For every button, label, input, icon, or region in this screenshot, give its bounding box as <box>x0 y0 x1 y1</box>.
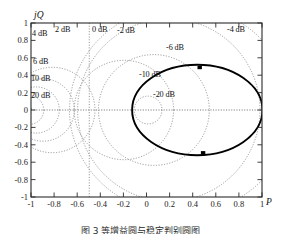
x-tick-label-10: 1 <box>242 199 281 209</box>
y-tick-label-8: -0.6 <box>0 157 28 167</box>
y-tick-label-7: -0.4 <box>0 140 28 150</box>
figure-caption: 图 3 等增益圆与稳定判别圆图 <box>0 224 281 234</box>
curve-marker-lower <box>201 151 205 154</box>
contour-label-2db: 2 dB <box>55 25 70 34</box>
contour-label-20db: 20 dB <box>31 91 50 100</box>
contour-label-0db: 0 dB <box>92 25 107 34</box>
contour-label-minus20db: -20 dB <box>153 90 175 99</box>
contour-label-6db: 6 dB <box>33 57 48 66</box>
x-axis-name: P <box>266 197 272 207</box>
y-tick-label-4: 0.2 <box>0 88 28 98</box>
y-tick-label-10: -1 <box>0 192 28 202</box>
figure-container: -1 -0.8 -0.6 -0.4 -0.2 0 0.2 0.4 0.6 0.8… <box>0 0 281 234</box>
y-tick-label-0: 1 <box>0 18 28 28</box>
contour-label-minus10db: -10 dB <box>139 70 161 79</box>
contour-label-10db: 10 dB <box>31 74 50 83</box>
y-tick-label-6: -0.2 <box>0 122 28 132</box>
y-axis-name: jQ <box>34 10 44 20</box>
y-tick-label-5: 0 <box>0 105 28 115</box>
contour-label-4db: 4 dB <box>32 29 47 38</box>
y-tick-label-1: 0.8 <box>0 35 28 45</box>
contour-label-minus6db: -6 dB <box>166 43 184 52</box>
curve-marker-upper <box>198 66 202 69</box>
contour-label-minus4db: -4 dB <box>227 25 245 34</box>
y-tick-label-3: 0.4 <box>0 70 28 80</box>
y-tick-label-2: 0.6 <box>0 53 28 63</box>
y-tick-label-9: -0.8 <box>0 175 28 185</box>
contour-label-minus2db: -2 dB <box>117 26 135 35</box>
